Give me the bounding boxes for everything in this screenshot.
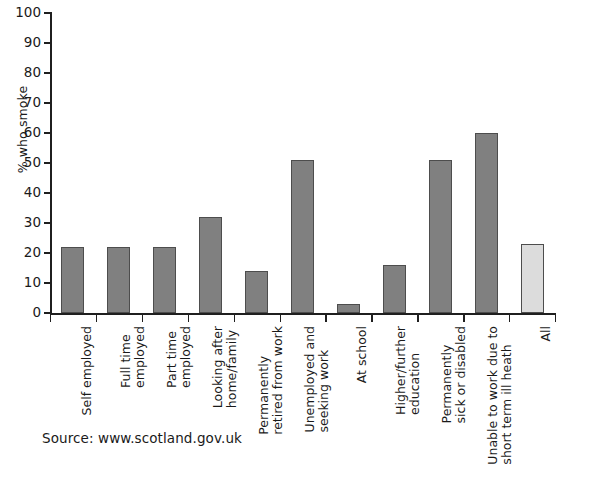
x-axis-label: Part timeemployed: [165, 326, 192, 388]
x-axis-tick: [509, 313, 510, 322]
bar: [61, 247, 84, 313]
x-axis-tick: [96, 313, 97, 322]
x-axis-label: Permanentlyretired from work: [257, 326, 284, 435]
x-axis-label-line: employed: [132, 326, 146, 388]
x-axis-tick: [188, 313, 189, 322]
x-axis-label-line: retired from work: [270, 326, 284, 435]
bar: [521, 244, 544, 313]
x-axis-label: Self employed: [80, 326, 94, 415]
bar: [245, 271, 268, 313]
x-axis-label-line: home/family: [224, 326, 238, 408]
x-axis-label-line: sick or disabled: [454, 326, 468, 423]
x-axis-label-line: Unable to work due to: [486, 326, 500, 465]
bar: [337, 304, 360, 313]
x-axis-label: Higher/furthereducation: [394, 326, 421, 415]
y-axis-tick-label: 100: [1, 6, 41, 20]
y-axis-tick-label: 90: [1, 36, 41, 50]
y-axis-tick-label: 40: [1, 186, 41, 200]
plot-area: [50, 13, 555, 313]
bar: [107, 247, 130, 313]
x-axis-line: [50, 313, 556, 315]
y-axis-tick-label: 80: [1, 66, 41, 80]
x-axis-label-line: Permanently: [440, 326, 454, 423]
bar: [199, 217, 222, 313]
bar: [475, 133, 498, 313]
y-axis-tick-label: 20: [1, 246, 41, 260]
x-axis-label: Full timeemployed: [119, 326, 146, 388]
x-axis-label-line: Full time: [119, 326, 133, 388]
x-axis-tick: [280, 313, 281, 322]
y-axis-tick-label: 0: [1, 306, 41, 320]
bar: [153, 247, 176, 313]
x-axis-tick: [142, 313, 143, 322]
x-axis-label-line: Higher/further: [394, 326, 408, 415]
bar: [291, 160, 314, 313]
x-axis-label: At school: [355, 326, 369, 383]
x-axis-label-line: short term ill heath: [500, 326, 514, 465]
x-axis-label-line: All: [539, 326, 553, 342]
x-axis-label: Unable to work due toshort term ill heat…: [486, 326, 513, 465]
x-axis-label: All: [539, 326, 553, 342]
x-axis-tick: [463, 313, 464, 322]
x-axis-label: Unemployed andseeking work: [303, 326, 330, 433]
y-axis-tick-label: 30: [1, 216, 41, 230]
x-axis-tick: [325, 313, 326, 322]
bar: [429, 160, 452, 313]
x-axis-tick: [417, 313, 418, 322]
x-axis-label-line: education: [408, 326, 422, 415]
x-axis-label-line: Part time: [165, 326, 179, 388]
x-axis-tick: [50, 313, 51, 322]
x-axis-label-line: Looking after: [211, 326, 225, 408]
x-axis-label: Permanentlysick or disabled: [440, 326, 467, 423]
source-note: Source: www.scotland.gov.uk: [42, 430, 242, 446]
x-axis-tick: [371, 313, 372, 322]
x-axis-tick: [555, 313, 556, 322]
x-axis-label-line: Permanently: [257, 326, 271, 435]
y-axis-tick-label: 60: [1, 126, 41, 140]
x-axis-label-line: employed: [178, 326, 192, 388]
x-axis-tick: [234, 313, 235, 322]
y-axis-tick-label: 10: [1, 276, 41, 290]
x-axis-label: Looking afterhome/family: [211, 326, 238, 408]
bar-chart: % who smoke 1009080706050403020100 Self …: [0, 0, 592, 483]
y-axis-tick-label: 50: [1, 156, 41, 170]
x-axis-label-line: seeking work: [316, 326, 330, 433]
x-axis-label-line: Self employed: [80, 326, 94, 415]
bar: [383, 265, 406, 313]
x-axis-label-line: At school: [355, 326, 369, 383]
x-axis-label-line: Unemployed and: [303, 326, 317, 433]
y-axis-tick-label: 70: [1, 96, 41, 110]
